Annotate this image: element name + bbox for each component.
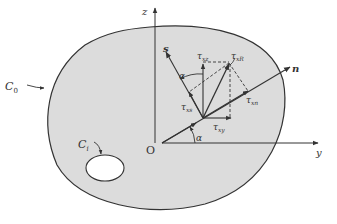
alpha-top-label: α — [179, 71, 185, 81]
torsion-stress-diagram: C0 Ci O y z n s α α τxz τxR τxs τxn τxy — [0, 0, 337, 224]
z-axis-label: z — [141, 6, 148, 17]
origin-label: O — [146, 144, 155, 157]
y-axis-label: y — [315, 147, 322, 158]
c0-pointer — [27, 85, 44, 88]
s-axis-label: s — [163, 43, 169, 54]
n-axis-label: n — [292, 63, 299, 74]
outer-boundary-label: C0 — [5, 80, 18, 95]
alpha-bottom-label: α — [196, 133, 202, 143]
hole-boundary — [86, 155, 124, 181]
